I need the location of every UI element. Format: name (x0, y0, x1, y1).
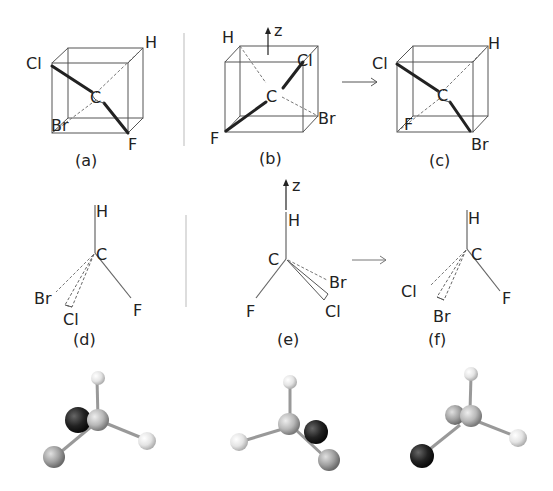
atom-ball-h (283, 375, 297, 389)
cube-panel-b: z H Cl C Br F (b) (210, 21, 336, 168)
atom-label-br: Br (471, 135, 489, 154)
caption-b: (b) (259, 149, 282, 168)
atom-ball-f (138, 432, 156, 450)
transform-arrow-row2 (352, 256, 386, 264)
atom-label-br: Br (329, 273, 347, 292)
atom-label-br: Br (51, 116, 69, 135)
atom-label-cl: Cl (372, 54, 388, 73)
atom-label-h: H (488, 34, 500, 53)
wedge-panel-e: z H C Br Cl F (e) (246, 176, 347, 349)
atom-ball-h (464, 367, 478, 381)
caption-a: (a) (75, 151, 97, 170)
atom-ball-c (87, 409, 109, 431)
atom-label-cl: Cl (297, 51, 313, 70)
caption-f: (f) (428, 330, 446, 349)
atom-ball-cl (304, 420, 328, 444)
atom-label-h: H (288, 211, 300, 230)
atom-label-f: F (404, 115, 413, 134)
atom-ball-br (43, 446, 65, 468)
atom-label-cl: Cl (63, 310, 79, 329)
atom-label-h: H (468, 209, 480, 228)
atom-label-br: Br (433, 307, 451, 326)
atom-label-cl: Cl (401, 282, 417, 301)
stereochemistry-figure: Cl H C Br F (a) z H Cl C Br F (b) (0, 0, 553, 491)
atom-label-c: C (96, 245, 107, 264)
atom-label-c: C (268, 250, 279, 269)
atom-label-f: F (210, 129, 219, 148)
wedge-panel-d: H C Br Cl F (d) (34, 202, 142, 349)
axis-label-z: z (274, 21, 282, 40)
atom-ball-f (230, 433, 248, 451)
atom-label-br: Br (34, 289, 52, 308)
atom-label-cl: Cl (26, 54, 42, 73)
z-axis-arrowhead-icon (265, 27, 271, 34)
atom-ball-br (318, 449, 340, 471)
atom-label-cl: Cl (325, 302, 341, 321)
atom-label-h: H (145, 33, 157, 52)
atom-label-h: H (222, 28, 234, 47)
transform-arrow-row1 (342, 78, 377, 86)
atom-label-f: F (133, 301, 142, 320)
ball-stick-model-f (410, 367, 527, 468)
atom-ball-cl (410, 444, 434, 468)
axis-label-z: z (292, 176, 300, 195)
caption-e: (e) (277, 330, 299, 349)
caption-c: (c) (429, 151, 450, 170)
cube-panel-c: Cl H C F Br (c) (372, 34, 500, 170)
atom-label-h: H (96, 202, 108, 221)
atom-label-c: C (90, 88, 101, 107)
atom-label-c: C (437, 86, 448, 105)
ball-stick-model-d (43, 371, 156, 468)
atom-label-f: F (246, 302, 255, 321)
atom-label-br: Br (318, 109, 336, 128)
atom-label-c: C (266, 87, 277, 106)
atom-label-f: F (128, 135, 137, 154)
z-axis-arrowhead-icon (283, 179, 289, 186)
wedge-panel-f: H C Cl Br F (f) (401, 209, 511, 349)
atom-ball-c (278, 413, 300, 435)
ball-stick-model-e (230, 375, 340, 471)
atom-label-f: F (502, 289, 511, 308)
atom-label-c: C (471, 245, 482, 264)
atom-ball-h (91, 371, 105, 385)
atom-ball-c (460, 405, 482, 427)
cube-panel-a: Cl H C Br F (a) (26, 33, 157, 170)
caption-d: (d) (73, 330, 96, 349)
atom-ball-f (509, 429, 527, 447)
